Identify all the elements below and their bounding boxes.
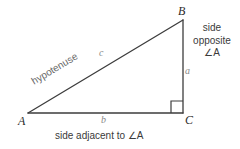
side-opposite-line-3: ∠A (186, 47, 238, 60)
side-variable-b: b (101, 115, 106, 125)
side-opposite-line-2: opposite (186, 35, 238, 48)
side-variable-a: a (185, 66, 190, 76)
side-opposite-line-1: side (186, 22, 238, 35)
vertex-label-a: A (18, 115, 25, 127)
right-triangle-diagram: A B C a b c side opposite ∠A side adjace… (0, 0, 240, 149)
side-variable-c: c (99, 48, 103, 58)
vertex-label-c: C (185, 114, 193, 126)
right-angle-marker-icon (171, 101, 183, 113)
vertex-label-b: B (178, 5, 185, 17)
side-adjacent-label: side adjacent to ∠A (55, 131, 144, 141)
side-opposite-label: side opposite ∠A (186, 22, 238, 60)
